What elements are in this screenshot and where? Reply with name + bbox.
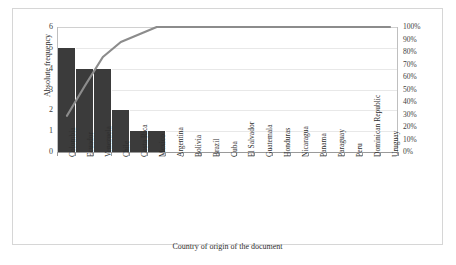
x-axis-category-label: Panama <box>320 133 328 157</box>
x-axis-category-labels: ColombiaEcuadorVenezuelaChileCosta RicaM… <box>57 157 398 237</box>
x-axis-category-label: Peru <box>356 143 364 157</box>
y-axis-right-tick-label: 60% <box>403 73 433 81</box>
y-axis-right-tick-label: 30% <box>403 111 433 119</box>
x-axis-category-label: Mexico <box>159 134 167 157</box>
x-axis-category-label: Chile <box>123 141 131 157</box>
x-axis-category-label: Brazil <box>213 139 221 157</box>
y-axis-left-tick-label: 5 <box>27 44 53 52</box>
y-axis-right-tick-label: 0% <box>403 148 433 156</box>
x-axis-title: Country of origin of the document <box>57 242 398 251</box>
x-axis-category-label: Guatemala <box>266 125 274 157</box>
x-axis-category-label: Venezuela <box>105 126 113 157</box>
y-axis-right-tick-label: 20% <box>403 123 433 131</box>
y-axis-left: Absolute frequency 0123456 <box>27 9 53 169</box>
x-axis-category-label: Uruguay <box>392 131 400 157</box>
x-axis-category-label: Colombia <box>69 127 77 157</box>
y-axis-left-tick-label: 1 <box>27 127 53 135</box>
x-axis-category-label: Costa Rica <box>141 124 149 157</box>
y-axis-left-tick-label: 3 <box>27 86 53 94</box>
x-axis-category-label: Cuba <box>231 141 239 157</box>
y-axis-left-tick-label: 4 <box>27 65 53 73</box>
y-axis-right-tick-label: 50% <box>403 86 433 94</box>
y-axis-left-tick-label: 0 <box>27 148 53 156</box>
chart-frame: Absolute frequency 0123456 Cumulative re… <box>12 8 443 245</box>
x-axis-category-label: Paraguay <box>338 129 346 157</box>
y-axis-left-tick-label: 6 <box>27 23 53 31</box>
y-axis-right-tick-label: 100% <box>403 23 433 31</box>
x-axis-category-label: Dominican Republic <box>374 95 382 157</box>
x-axis-category-label: Ecuador <box>87 132 95 157</box>
y-axis-right-tick-label: 70% <box>403 61 433 69</box>
chart-screenshot: Absolute frequency 0123456 Cumulative re… <box>0 0 456 265</box>
y-axis-right-tick-label: 80% <box>403 48 433 56</box>
y-axis-right: Cumulative relative frequency 0%10%20%30… <box>403 9 433 169</box>
x-axis-category-label: El Salvador <box>248 122 256 157</box>
x-axis-category-label: Argentina <box>177 127 185 157</box>
y-axis-right-tick-label: 90% <box>403 36 433 44</box>
x-axis-category-label: Nicaragua <box>302 126 310 157</box>
x-axis-category-label: Bolivia <box>195 135 203 157</box>
x-axis-category-label: Honduras <box>284 128 292 157</box>
y-axis-right-tick-label: 10% <box>403 136 433 144</box>
y-axis-right-tick-label: 40% <box>403 98 433 106</box>
y-axis-left-tick-label: 2 <box>27 106 53 114</box>
x-axis-tick <box>57 152 58 156</box>
